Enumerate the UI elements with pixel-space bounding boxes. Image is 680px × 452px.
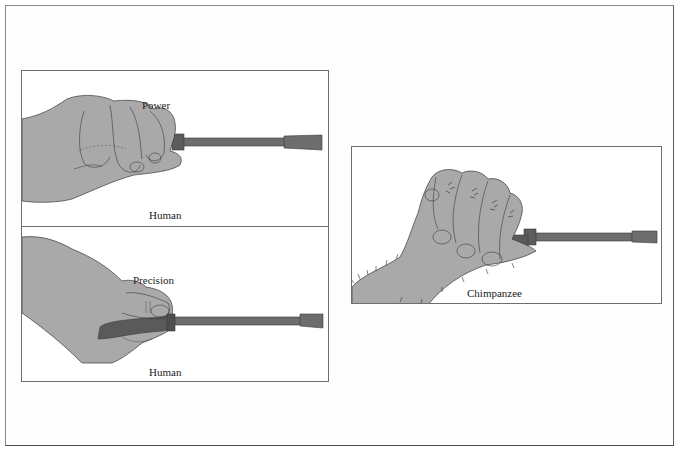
chimpanzee-species-label: Chimpanzee — [467, 287, 522, 299]
human-grips-panel: Power Human Precision Human — [21, 70, 329, 382]
chimpanzee-grip-illustration — [352, 147, 662, 304]
power-grip-label: Power — [142, 99, 170, 111]
power-species-label: Human — [149, 209, 181, 221]
power-grip-illustration — [22, 71, 329, 226]
precision-species-label: Human — [149, 366, 181, 378]
precision-grip-label: Precision — [133, 274, 174, 286]
chimpanzee-grip-panel: Chimpanzee — [351, 146, 662, 304]
precision-grip-illustration — [22, 227, 329, 382]
